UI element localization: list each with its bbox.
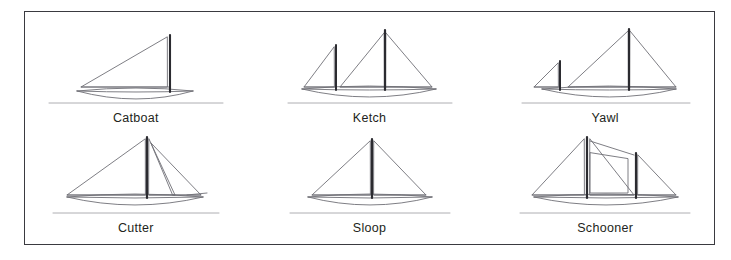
boat-label-catboat: Catboat [113,112,159,125]
catboat-diagram [41,19,231,111]
hull-sheer [67,197,203,198]
jib [386,33,432,87]
hull-sheer [308,197,432,198]
mainsail [590,139,634,195]
mizzen-sail [304,47,334,87]
yawl-diagram [510,19,700,111]
aft-sail [638,155,676,195]
mainsail [81,37,167,87]
jib [630,31,676,87]
sloop-diagram [274,129,464,221]
boat-cell-cutter: Cutter [21,124,251,240]
boat-grid: Catboat [25,12,714,244]
ketch-diagram [274,19,464,111]
schooner-diagram [510,129,700,221]
boat-cell-yawl: Yawl [490,14,720,130]
mainsail [568,31,628,87]
figure-frame: Catboat [24,11,715,245]
mizzen-sail [534,63,558,87]
hull-deck [67,194,203,197]
boat-cell-ketch: Ketch [255,14,485,130]
boat-cell-catboat: Catboat [21,14,251,130]
boat-label-sloop: Sloop [353,222,386,235]
hull-sheer [77,91,193,92]
foresail [532,139,584,195]
hull-sheer [534,197,678,198]
hull-deck [542,86,676,89]
hull-sheer [302,89,436,90]
boat-label-cutter: Cutter [118,222,154,235]
mainsail [312,141,370,195]
boat-cell-schooner: Schooner [490,124,720,240]
boat-label-schooner: Schooner [577,222,633,235]
jib [374,141,426,195]
boat-cell-sloop: Sloop [255,124,485,240]
hull-deck [77,88,193,91]
hull-deck [534,194,678,197]
hull-deck [302,86,436,89]
jib [151,143,201,195]
boat-label-yawl: Yawl [591,112,618,125]
figure-root: Catboat [0,0,731,260]
boat-label-ketch: Ketch [353,112,386,125]
mainsail [67,139,145,195]
mainsail [340,33,384,87]
cutter-diagram [41,129,231,221]
main-staysail [590,153,628,193]
hull-sheer [542,89,676,90]
